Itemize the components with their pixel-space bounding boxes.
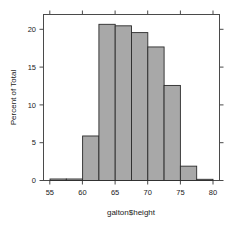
x-axis-title: galton$height (107, 208, 156, 217)
histogram-bars (50, 24, 213, 180)
histogram-bar (148, 47, 164, 181)
histogram-bar (50, 179, 66, 181)
histogram-bar (180, 166, 196, 180)
y-tick-label-2: 10 (28, 101, 36, 110)
x-tick-label-4: 75 (176, 188, 184, 197)
histogram-bar (83, 136, 99, 181)
chart-figure: 0 5 10 15 20 55 60 65 70 75 (0, 0, 233, 232)
y-tick-label-1: 5 (32, 138, 36, 147)
x-tick-label-0: 55 (46, 188, 54, 197)
y-tick-label-0: 0 (32, 176, 36, 185)
x-tick-label-5: 80 (209, 188, 217, 197)
histogram-bar (115, 26, 131, 181)
histogram-bar (197, 179, 213, 180)
histogram-bar (164, 85, 180, 180)
y-tick-label-4: 20 (28, 25, 36, 34)
x-tick-label-1: 60 (78, 188, 86, 197)
x-tick-label-2: 65 (111, 188, 119, 197)
x-tick-label-3: 70 (144, 188, 152, 197)
histogram-bar (99, 24, 115, 180)
x-axis-tick-labels: 55 60 65 70 75 80 (46, 188, 218, 197)
y-axis-tick-labels: 0 5 10 15 20 (28, 25, 36, 185)
y-axis-title: Percent of Total (9, 70, 18, 126)
histogram-bar (66, 179, 82, 181)
y-tick-label-3: 15 (28, 63, 36, 72)
histogram-plot: 0 5 10 15 20 55 60 65 70 75 (0, 0, 233, 232)
histogram-bar (132, 33, 148, 181)
